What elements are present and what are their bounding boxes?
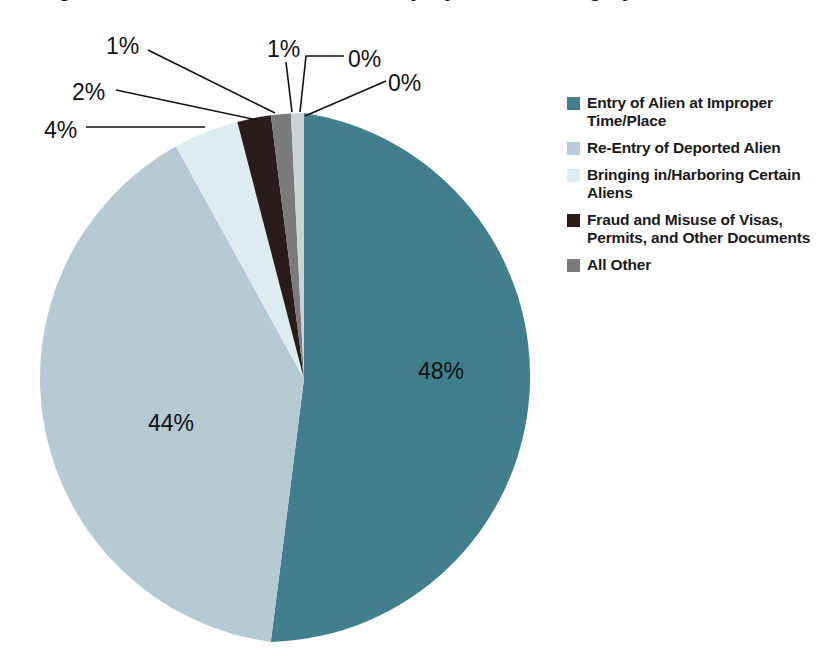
legend-item-label: All Other <box>587 256 651 274</box>
callout-label-0b: 0% <box>388 70 421 97</box>
leader-line-0b <box>305 81 386 116</box>
legend-swatch-icon <box>567 142 580 155</box>
legend-item-label: Bringing in/Harboring Certain Aliens <box>587 166 829 202</box>
chart-page: Immigration Offenders in Federal Custody… <box>0 0 834 671</box>
legend-swatch-icon <box>567 214 580 227</box>
legend-item-label: Re-Entry of Deported Alien <box>587 139 781 157</box>
chart-legend: Entry of Alien at Improper Time/Place Re… <box>567 94 829 283</box>
legend-swatch-icon <box>567 97 580 110</box>
slice-value-48: 48% <box>418 358 464 385</box>
leader-line-1b <box>286 62 292 112</box>
leader-line-0a <box>300 56 344 112</box>
callout-label-4: 4% <box>44 117 77 144</box>
callout-label-1a: 1% <box>106 33 139 60</box>
legend-item-label: Entry of Alien at Improper Time/Place <box>587 94 829 130</box>
pie-svg <box>38 113 570 645</box>
legend-item-all-other[interactable]: All Other <box>567 256 829 274</box>
slice-value-44: 44% <box>148 410 194 437</box>
legend-item-bringing-in-harboring[interactable]: Bringing in/Harboring Certain Aliens <box>567 166 829 202</box>
legend-item-entry-of-alien[interactable]: Entry of Alien at Improper Time/Place <box>567 94 829 130</box>
callout-label-0a: 0% <box>348 46 381 73</box>
pie-chart <box>38 113 570 645</box>
legend-item-fraud-and-misuse[interactable]: Fraud and Misuse of Visas, Permits, and … <box>567 211 829 247</box>
callout-label-2: 2% <box>72 79 105 106</box>
legend-swatch-icon <box>567 169 580 182</box>
legend-item-label: Fraud and Misuse of Visas, Permits, and … <box>587 211 829 247</box>
legend-swatch-icon <box>567 259 580 272</box>
chart-title: Immigration Offenders in Federal Custody… <box>10 0 630 2</box>
pie-slice-entry-of-alien[interactable] <box>271 113 530 642</box>
leader-line-1a <box>148 50 275 113</box>
legend-item-re-entry-deported[interactable]: Re-Entry of Deported Alien <box>567 139 829 157</box>
callout-label-1b: 1% <box>267 36 300 63</box>
